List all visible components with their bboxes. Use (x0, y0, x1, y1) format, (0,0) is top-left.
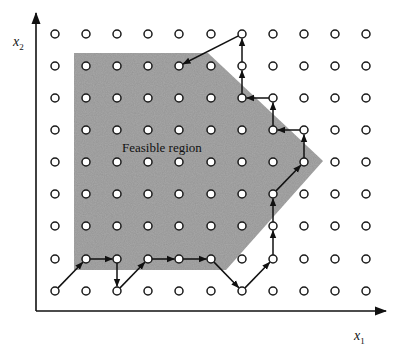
lattice-point (362, 94, 370, 102)
lattice-point (269, 287, 277, 295)
lattice-point (207, 94, 215, 102)
lattice-point (238, 30, 246, 38)
lattice-point (175, 255, 183, 263)
lattice-point (362, 190, 370, 198)
feasible-region-polygon (74, 53, 323, 270)
lattice-point (300, 255, 308, 263)
lattice-point (207, 190, 215, 198)
lattice-point (175, 158, 183, 166)
lattice-point (51, 158, 59, 166)
lattice-point (331, 94, 339, 102)
lattice-point (331, 30, 339, 38)
lattice-point (144, 126, 152, 134)
feasible-region (74, 53, 323, 270)
lattice-point (238, 126, 246, 134)
lattice-point (300, 222, 308, 230)
lattice-point (300, 126, 308, 134)
integer-lattice-diagram: x2 x1 Feasible region (0, 0, 397, 357)
lattice-point (300, 94, 308, 102)
lattice-point (362, 62, 370, 70)
lattice-point (207, 158, 215, 166)
lattice-point (51, 287, 59, 295)
lattice-point (300, 62, 308, 70)
lattice-point (144, 94, 152, 102)
lattice-point (82, 62, 90, 70)
lattice-point (144, 30, 152, 38)
y-axis-label: x2 (13, 34, 24, 52)
lattice-point (238, 287, 246, 295)
lattice-point (238, 158, 246, 166)
lattice-point (238, 190, 246, 198)
lattice-point (362, 126, 370, 134)
lattice-point (51, 255, 59, 263)
lattice-point (82, 126, 90, 134)
lattice-point (51, 94, 59, 102)
lattice-point (269, 94, 277, 102)
lattice-point (269, 30, 277, 38)
lattice-point (207, 287, 215, 295)
lattice-point (175, 222, 183, 230)
lattice-point (51, 222, 59, 230)
path-arrow (245, 262, 270, 288)
lattice-point (207, 255, 215, 263)
lattice-point (113, 158, 121, 166)
lattice-point (238, 222, 246, 230)
lattice-point (144, 158, 152, 166)
lattice-point (238, 62, 246, 70)
lattice-point (269, 62, 277, 70)
lattice-point (300, 287, 308, 295)
lattice-point (82, 94, 90, 102)
lattice-point (82, 255, 90, 263)
lattice-point (82, 158, 90, 166)
lattice-point (144, 287, 152, 295)
lattice-point (175, 126, 183, 134)
lattice-point (269, 158, 277, 166)
feasible-region-label: Feasible region (122, 140, 202, 156)
lattice-point (175, 30, 183, 38)
lattice-point (269, 255, 277, 263)
path-arrow (58, 262, 83, 288)
lattice-point (331, 287, 339, 295)
lattice-point (113, 287, 121, 295)
lattice-point (362, 287, 370, 295)
lattice-point (362, 255, 370, 263)
lattice-point (175, 62, 183, 70)
lattice-point (82, 190, 90, 198)
lattice-point (207, 62, 215, 70)
lattice-point (144, 62, 152, 70)
lattice-point (362, 158, 370, 166)
lattice-point (331, 62, 339, 70)
lattice-point (331, 255, 339, 263)
lattice-point (300, 190, 308, 198)
lattice-point (331, 126, 339, 134)
lattice-point (207, 222, 215, 230)
lattice-point (82, 30, 90, 38)
lattice-point (269, 190, 277, 198)
lattice-point (113, 94, 121, 102)
lattice-point (51, 126, 59, 134)
lattice-point (113, 255, 121, 263)
lattice-point (113, 222, 121, 230)
lattice-point (144, 222, 152, 230)
lattice-point (269, 126, 277, 134)
lattice-point (362, 30, 370, 38)
lattice-point (175, 287, 183, 295)
lattice-point (51, 190, 59, 198)
lattice-point (331, 190, 339, 198)
lattice-point (300, 30, 308, 38)
lattice-point (300, 158, 308, 166)
lattice-point (207, 30, 215, 38)
lattice-point (113, 62, 121, 70)
lattice-point (331, 222, 339, 230)
lattice-point (269, 222, 277, 230)
lattice-point (113, 30, 121, 38)
lattice-point (331, 158, 339, 166)
lattice-point (144, 255, 152, 263)
diagram-canvas (0, 0, 397, 357)
lattice-point (113, 126, 121, 134)
lattice-point (51, 30, 59, 38)
lattice-point (144, 190, 152, 198)
lattice-point (175, 190, 183, 198)
x-axis-label: x1 (354, 328, 365, 346)
lattice-point (238, 255, 246, 263)
